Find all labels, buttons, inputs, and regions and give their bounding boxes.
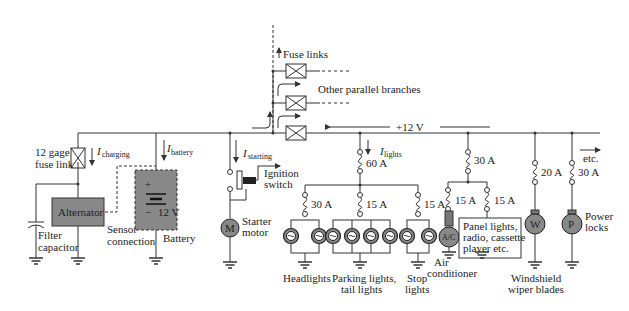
svg-text:conditioner: conditioner bbox=[427, 267, 477, 279]
svg-text:W: W bbox=[530, 218, 541, 230]
svg-text:fuse link: fuse link bbox=[35, 158, 74, 170]
etc-label: etc. bbox=[583, 152, 599, 164]
svg-text:+: + bbox=[145, 178, 151, 190]
svg-text:wiper blades: wiper blades bbox=[508, 283, 564, 295]
svg-text:12 V: 12 V bbox=[158, 206, 180, 218]
svg-text:+12 V: +12 V bbox=[396, 121, 424, 133]
circuit-diagram: +12 V etc. Fuse links Other parallel bra… bbox=[0, 0, 629, 311]
svg-text:motor: motor bbox=[242, 226, 269, 238]
svg-text:A/C: A/C bbox=[442, 233, 455, 242]
svg-text:Fuse links: Fuse links bbox=[283, 48, 328, 60]
starter-section: I starting Ignition switch M Starter mot… bbox=[221, 132, 299, 269]
svg-text:M: M bbox=[225, 222, 235, 234]
svg-text:Headlights: Headlights bbox=[283, 272, 331, 284]
svg-text:60 A: 60 A bbox=[366, 157, 387, 169]
svg-text:30 A: 30 A bbox=[474, 154, 495, 166]
svg-text:P: P bbox=[568, 218, 574, 230]
svg-text:Battery: Battery bbox=[163, 232, 196, 244]
svg-text:Alternator: Alternator bbox=[58, 206, 104, 218]
svg-text:tail lights: tail lights bbox=[341, 283, 382, 295]
charging-section: 12 gage fuse link I charging Filter capa… bbox=[28, 133, 196, 264]
svg-text:Other parallel branches: Other parallel branches bbox=[318, 83, 421, 95]
svg-text:locks: locks bbox=[585, 221, 608, 233]
svg-text:15 A: 15 A bbox=[366, 198, 387, 210]
svg-text:15 A: 15 A bbox=[494, 194, 515, 206]
svg-text:charging: charging bbox=[102, 150, 130, 159]
svg-text:15 A: 15 A bbox=[424, 198, 445, 210]
svg-text:starting: starting bbox=[248, 152, 272, 161]
lights-section: I lights 60 A 30 A Headlights 15 A Parki… bbox=[283, 132, 445, 296]
svg-text:Filter: Filter bbox=[38, 229, 62, 241]
svg-text:lights: lights bbox=[405, 283, 429, 295]
svg-text:15 A: 15 A bbox=[455, 194, 476, 206]
svg-text:switch: switch bbox=[264, 178, 293, 190]
svg-text:connection: connection bbox=[107, 235, 156, 247]
svg-text:Sensor: Sensor bbox=[107, 223, 137, 235]
svg-text:capacitor: capacitor bbox=[38, 241, 79, 253]
svg-text:30 A: 30 A bbox=[578, 166, 599, 178]
svg-text:−: − bbox=[145, 206, 151, 218]
wiper-section: 20 A W Windshield wiper blades bbox=[508, 132, 564, 296]
svg-text:battery: battery bbox=[171, 148, 193, 157]
svg-text:20 A: 20 A bbox=[541, 166, 562, 178]
svg-text:30 A: 30 A bbox=[311, 198, 332, 210]
svg-text:12 gage: 12 gage bbox=[35, 146, 70, 158]
